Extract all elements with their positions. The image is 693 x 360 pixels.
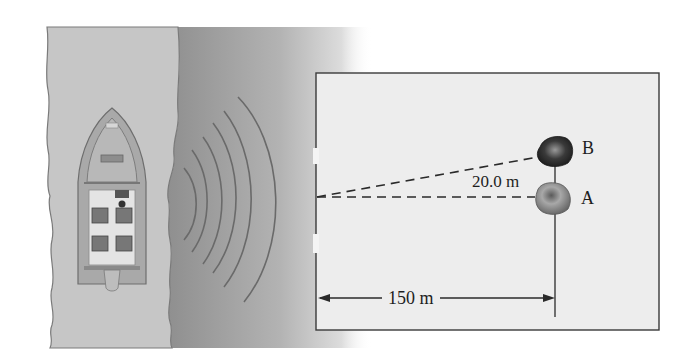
range-label: 150 m xyxy=(382,289,440,307)
steering-wheel-icon xyxy=(119,201,126,208)
seat xyxy=(116,208,132,223)
sonar-diagram: B A 20.0 m 150 m xyxy=(0,0,693,360)
seat xyxy=(92,236,108,251)
separation-label: 20.0 m xyxy=(472,173,519,190)
rock-b-label: B xyxy=(582,139,594,157)
hatch-icon xyxy=(101,155,123,162)
rock-a-label: A xyxy=(581,189,594,207)
deck xyxy=(89,190,135,265)
seat xyxy=(92,208,108,223)
console xyxy=(115,190,129,198)
seat xyxy=(116,236,132,251)
outboard-motor xyxy=(104,270,120,291)
rock-a xyxy=(536,183,571,215)
diagram-canvas xyxy=(0,0,693,360)
geometry-panel xyxy=(313,73,659,330)
